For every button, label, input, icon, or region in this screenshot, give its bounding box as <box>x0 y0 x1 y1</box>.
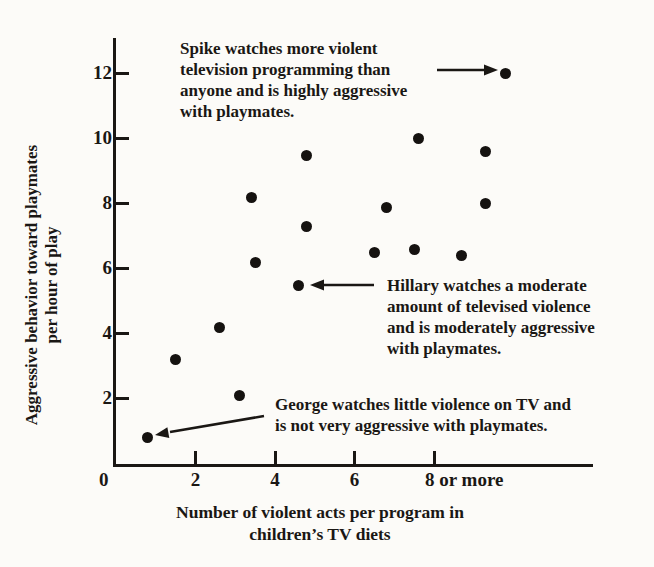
y-tick-mark <box>116 267 129 270</box>
data-point <box>214 322 225 333</box>
george-annotation: George watches little violence on TV and… <box>275 394 571 436</box>
spike-annotation-line4: with playmates. <box>180 101 407 122</box>
spike-annotation: Spike watches more violent television pr… <box>180 38 407 122</box>
y-axis-label-line2: per hour of play <box>42 115 62 455</box>
y-tick-label: 6 <box>103 257 113 279</box>
data-point <box>250 257 261 268</box>
y-tick-label: 4 <box>103 322 113 344</box>
data-point <box>301 150 312 161</box>
george-annotation-line1: George watches little violence on TV and <box>275 394 571 415</box>
x-tick-mark <box>433 451 436 464</box>
data-point <box>170 354 181 365</box>
y-tick-label: 10 <box>93 127 112 149</box>
spike-annotation-line3: anyone and is highly aggressive <box>180 80 407 101</box>
x-axis-label-line1: Number of violent acts per program in <box>118 501 522 523</box>
x-tick-mark <box>274 451 277 464</box>
y-tick-mark <box>116 202 129 205</box>
x-tick-label: 6 <box>350 469 360 491</box>
data-point <box>456 250 467 261</box>
x-tick-mark <box>353 451 356 464</box>
x-tick-label: 8 or more <box>425 469 503 491</box>
data-point <box>369 247 380 258</box>
x-axis-label-line2: children’s TV diets <box>118 523 522 545</box>
y-tick-mark <box>116 137 129 140</box>
x-tick-label: 2 <box>191 469 201 491</box>
hillary-annotation: Hillary watches a moderate amount of tel… <box>387 275 595 359</box>
george-annotation-line2: is not very aggressive with playmates. <box>275 415 571 436</box>
x-tick-label: 4 <box>270 469 280 491</box>
y-axis-label-line1: Aggressive behavior toward playmates <box>22 115 42 455</box>
data-point-hillary <box>293 280 304 291</box>
y-tick-label: 8 <box>103 192 113 214</box>
george-arrow-icon <box>150 408 270 442</box>
data-point <box>301 221 312 232</box>
data-point <box>413 133 424 144</box>
data-point <box>409 244 420 255</box>
y-tick-mark <box>116 72 129 75</box>
spike-annotation-line1: Spike watches more violent <box>180 38 407 59</box>
spike-arrow-icon <box>434 63 504 77</box>
hillary-annotation-line2: amount of televised violence <box>387 296 595 317</box>
spike-annotation-line2: television programming than <box>180 59 407 80</box>
x-origin-label: 0 <box>99 469 109 491</box>
data-point <box>381 202 392 213</box>
hillary-annotation-line3: and is moderately aggressive <box>387 317 595 338</box>
x-axis-label: Number of violent acts per program in ch… <box>118 501 522 545</box>
y-axis-label: Aggressive behavior toward playmates per… <box>22 115 62 455</box>
hillary-annotation-line1: Hillary watches a moderate <box>387 275 595 296</box>
x-tick-mark <box>194 451 197 464</box>
y-tick-mark <box>116 397 129 400</box>
y-tick-label: 2 <box>103 387 113 409</box>
scatter-figure: 2468 or more24681012 0 Aggressive behavi… <box>0 0 654 567</box>
data-point <box>480 146 491 157</box>
y-tick-label: 12 <box>93 62 112 84</box>
data-point <box>234 390 245 401</box>
data-point <box>480 198 491 209</box>
y-tick-mark <box>116 332 129 335</box>
data-point <box>246 192 257 203</box>
hillary-arrow-icon <box>306 278 376 292</box>
hillary-annotation-line4: with playmates. <box>387 338 595 359</box>
